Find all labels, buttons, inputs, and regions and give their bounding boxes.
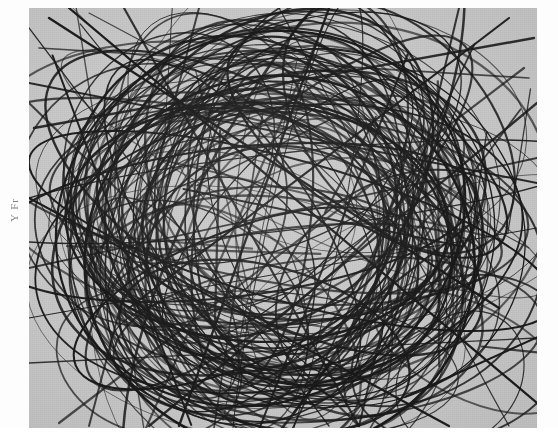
plot-panel [29, 8, 537, 428]
figure-page: Y Fr [0, 0, 558, 446]
paper-bottom-margin [0, 428, 558, 446]
y-axis-label-wrap: Y Fr [0, 150, 28, 270]
y-axis-label: Y Fr [8, 198, 20, 222]
curve-arrangement [29, 8, 537, 428]
